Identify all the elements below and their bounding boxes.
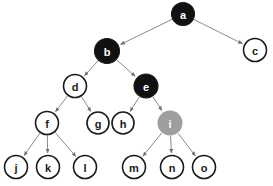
tree-edge-f-l [55,132,76,156]
tree-edge-e-h [130,97,139,112]
tree-edge-i-o [178,133,195,156]
tree-node-m[interactable]: m [123,156,146,179]
tree-edge-e-i [153,96,162,110]
tree-node-label-h: h [120,118,127,130]
tree-node-label-b: b [104,46,111,58]
tree-graph-svg: acbdefghijklmno [0,0,273,186]
tree-node-label-f: f [45,118,49,130]
tree-node-label-e: e [143,81,149,93]
tree-node-label-j: j [13,162,17,174]
nodes-layer: acbdefghijklmno [5,3,267,179]
tree-edge-f-j [24,133,40,156]
tree-node-j[interactable]: j [5,156,28,179]
tree-node-a[interactable]: a [172,3,195,26]
tree-node-d[interactable]: d [64,75,87,98]
tree-node-label-k: k [45,162,52,174]
tree-node-f[interactable]: f [36,112,59,135]
tree-edge-i-m [143,133,162,156]
tree-node-label-m: m [129,162,139,174]
tree-node-g[interactable]: g [87,112,109,134]
tree-node-label-o: o [201,162,208,174]
tree-node-b[interactable]: b [95,39,120,64]
tree-node-e[interactable]: e [134,74,158,98]
tree-node-label-g: g [95,118,102,130]
tree-node-h[interactable]: h [112,112,134,134]
tree-diagram: acbdefghijklmno [0,0,273,186]
tree-edge-d-g [81,96,91,111]
edges-layer [24,19,242,156]
tree-edge-i-n [171,136,172,153]
tree-edge-b-e [117,60,136,77]
tree-node-n[interactable]: n [161,156,184,179]
tree-node-o[interactable]: o [193,156,216,179]
tree-edge-a-b [120,19,172,44]
tree-node-i[interactable]: i [158,111,183,136]
tree-node-label-d: d [72,81,79,93]
tree-edge-d-f [55,96,67,112]
tree-node-label-c: c [252,45,258,57]
tree-node-k[interactable]: k [37,156,60,179]
tree-node-label-l: l [83,162,86,174]
tree-node-l[interactable]: l [74,156,97,179]
tree-node-label-i: i [168,118,171,130]
tree-node-label-n: n [169,162,176,174]
tree-node-label-a: a [180,9,187,21]
tree-node-c[interactable]: c [244,39,267,62]
tree-edge-b-d [84,61,98,76]
tree-edge-a-c [194,19,243,43]
